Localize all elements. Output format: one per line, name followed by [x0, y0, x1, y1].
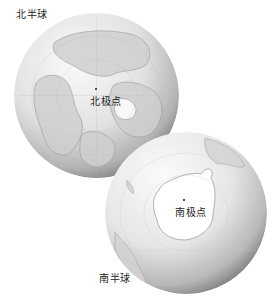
southern-hemisphere-label: 南半球: [99, 273, 131, 285]
northern-hemisphere-label: 北半球: [16, 9, 48, 21]
north-pole-label: 北极点: [90, 96, 122, 108]
south-pole-marker: [183, 199, 185, 201]
north-pole-marker: [95, 88, 97, 90]
south-pole-label: 南极点: [175, 207, 207, 219]
